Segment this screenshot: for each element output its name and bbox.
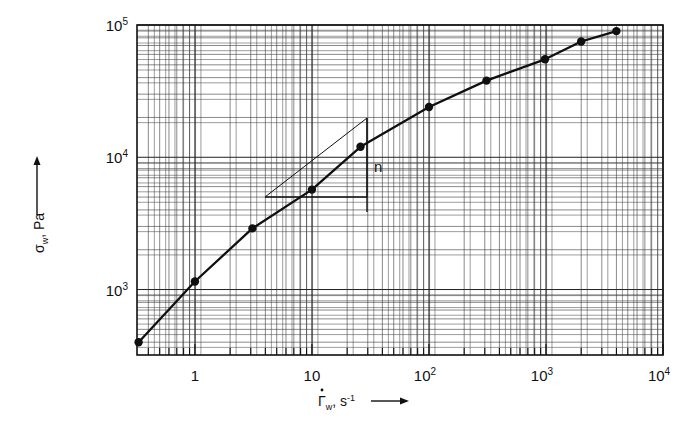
y-axis-title-unit: , Pa (31, 213, 47, 238)
data-point-marker (577, 37, 585, 45)
x-tick-label: 1 (191, 367, 199, 384)
x-axis-title-unit-exponent: -1 (347, 393, 355, 403)
data-point-marker (425, 103, 433, 111)
figure-container: n 110102103104 103104105 Γw, s-1 σw, Pa (0, 0, 699, 431)
data-point-marker (612, 27, 620, 35)
data-point-marker (541, 55, 549, 63)
data-point-marker (308, 185, 316, 193)
data-point-marker (248, 224, 256, 232)
data-point-marker (134, 338, 142, 346)
slope-label-n: n (374, 158, 382, 175)
gamma-dot-accent (321, 389, 324, 392)
data-point-marker (356, 143, 364, 151)
data-point-marker (191, 277, 199, 285)
x-axis-title-unit: , s (332, 393, 347, 409)
data-point-marker (482, 76, 490, 84)
x-tick-label: 10 (304, 367, 321, 384)
log-log-flow-curve-chart: n 110102103104 103104105 Γw, s-1 σw, Pa (0, 0, 699, 431)
y-axis-title-symbol: σ (31, 244, 47, 253)
